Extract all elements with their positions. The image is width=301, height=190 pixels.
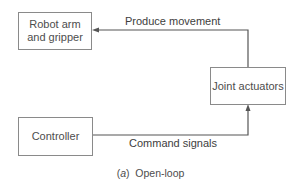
joint-actuators-box: Joint actuators: [210, 67, 286, 105]
controller-label: Controller: [32, 130, 80, 143]
joint-actuators-label: Joint actuators: [212, 80, 284, 93]
robot-arm-label-line2: and gripper: [27, 31, 83, 44]
produce-movement-label: Produce movement: [125, 15, 220, 27]
arrowhead-left-icon: [92, 28, 99, 33]
command-signals-line: [92, 107, 248, 135]
arrowhead-up-icon: [246, 104, 251, 111]
produce-movement-line: [95, 30, 248, 67]
controller-box: Controller: [18, 117, 93, 156]
figure-caption: (a) Open-loop: [0, 167, 301, 179]
robot-arm-box: Robot arm and gripper: [18, 12, 92, 50]
caption-text: Open-loop: [135, 167, 184, 179]
robot-arm-label-line1: Robot arm: [27, 18, 83, 31]
command-signals-label: Command signals: [129, 137, 217, 149]
